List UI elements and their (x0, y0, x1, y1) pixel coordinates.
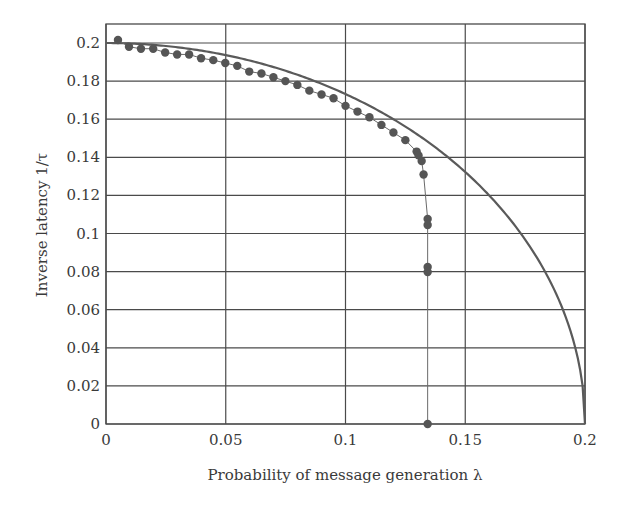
simulation-markers (114, 36, 432, 428)
data-point (233, 62, 241, 70)
x-tick-label: 0.2 (573, 431, 597, 449)
data-point (423, 420, 431, 428)
data-point (245, 67, 253, 75)
y-tick-label: 0.16 (67, 110, 100, 128)
data-point (185, 50, 193, 58)
data-point (209, 56, 217, 64)
x-tick-label: 0 (101, 431, 111, 449)
data-point (423, 268, 431, 276)
x-tick-label: 0.1 (334, 431, 358, 449)
data-point (417, 157, 425, 165)
data-point (281, 77, 289, 85)
data-point (419, 170, 427, 178)
data-point (293, 81, 301, 89)
data-point (161, 48, 169, 56)
y-axis-ticks: 00.020.040.060.080.10.120.140.160.180.2 (67, 34, 100, 433)
y-tick-label: 0.1 (76, 225, 100, 243)
x-tick-label: 0.15 (449, 431, 482, 449)
data-point (377, 121, 385, 129)
y-tick-label: 0.12 (67, 186, 100, 204)
data-point (389, 128, 397, 136)
y-tick-label: 0.06 (67, 301, 100, 319)
data-point (221, 59, 229, 67)
y-tick-label: 0.08 (67, 263, 100, 281)
data-point (173, 50, 181, 58)
data-point (341, 102, 349, 110)
data-point (114, 36, 122, 44)
data-point (401, 136, 409, 144)
data-point (329, 94, 337, 102)
data-point (365, 113, 373, 121)
data-point (257, 69, 265, 77)
data-point (137, 45, 145, 53)
y-tick-label: 0.14 (67, 148, 100, 166)
data-point (317, 90, 325, 98)
data-point (197, 54, 205, 62)
data-point (305, 86, 313, 94)
chart: 00.050.10.150.2 00.020.040.060.080.10.12… (0, 0, 622, 508)
data-point (149, 45, 157, 53)
data-point (125, 43, 133, 51)
x-tick-label: 0.05 (209, 431, 242, 449)
x-axis-ticks: 00.050.10.150.2 (101, 431, 597, 449)
y-tick-label: 0.2 (76, 34, 100, 52)
simulation-line (118, 40, 428, 424)
data-point (269, 73, 277, 81)
data-point (423, 221, 431, 229)
y-tick-label: 0.18 (67, 72, 100, 90)
y-tick-label: 0 (90, 415, 100, 433)
y-tick-label: 0.02 (67, 377, 100, 395)
data-point (353, 107, 361, 115)
y-axis-label: Inverse latency 1/τ (33, 153, 51, 297)
y-tick-label: 0.04 (67, 339, 100, 357)
x-axis-label: Probability of message generation λ (207, 466, 483, 484)
